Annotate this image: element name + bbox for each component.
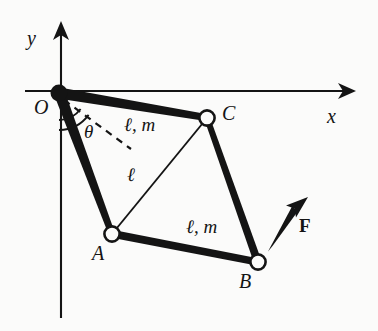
link-O-A-bar bbox=[53, 92, 115, 236]
link-C-B-bar bbox=[204, 117, 263, 263]
joint-B-circle bbox=[250, 254, 265, 269]
origin-pivot-dot bbox=[51, 85, 68, 102]
link-A-B-length-label: ℓ, m bbox=[186, 217, 217, 236]
force-arrow-shaft bbox=[268, 207, 298, 252]
joint-A-circle bbox=[104, 226, 119, 241]
linkage-diagram: y x O A B C θ ℓ, m ℓ ℓ, m F bbox=[0, 0, 378, 331]
joint-A-label: A bbox=[92, 243, 104, 263]
diagram-canvas bbox=[0, 0, 378, 331]
angle-theta-label: θ bbox=[84, 122, 93, 141]
joint-B-label: B bbox=[239, 271, 251, 291]
origin-label: O bbox=[34, 97, 48, 117]
force-label: F bbox=[299, 216, 311, 235]
x-axis-label: x bbox=[327, 106, 336, 126]
link-O-C-length-label: ℓ, m bbox=[124, 115, 155, 134]
link-A-B-bar bbox=[111, 230, 259, 267]
joint-C-label: C bbox=[222, 103, 235, 123]
y-axis-label: y bbox=[27, 28, 36, 48]
link-A-C-length-label: ℓ bbox=[127, 165, 135, 184]
axes-group bbox=[25, 21, 356, 318]
joint-C-circle bbox=[199, 110, 214, 125]
